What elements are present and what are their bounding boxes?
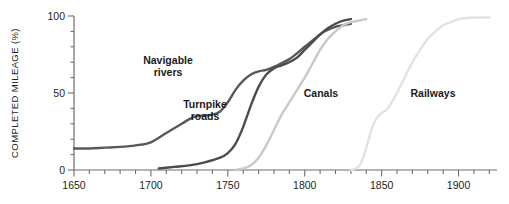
- x-axis-tick-labels: 165017001750180018501900: [62, 179, 470, 191]
- series-label-line: rivers: [143, 66, 193, 78]
- y-axis-ticks: [68, 16, 74, 170]
- y-tick-label-100: 100: [47, 10, 65, 22]
- series-label-line: roads: [183, 110, 227, 122]
- x-tick-label-1750: 1750: [216, 179, 240, 191]
- y-axis-title: COMPLETED MILEAGE (%): [9, 28, 20, 158]
- diffusion-s-curve-chart: 050100 165017001750180018501900 COMPLETE…: [0, 0, 509, 204]
- series-label-turnpike-roads: Turnpikeroads: [183, 98, 227, 122]
- series-label-canals: Canals: [304, 87, 338, 99]
- x-tick-label-1850: 1850: [370, 179, 394, 191]
- series-label-railways: Railways: [411, 87, 456, 99]
- chart-container: 050100 165017001750180018501900 COMPLETE…: [0, 0, 509, 204]
- series-label-line: Navigable: [143, 54, 193, 66]
- series-label-line: Railways: [411, 87, 456, 99]
- x-tick-label-1700: 1700: [139, 179, 163, 191]
- series-label-navigable-rivers: Navigablerivers: [143, 54, 193, 78]
- x-axis-ticks: [74, 170, 489, 177]
- x-tick-label-1900: 1900: [447, 179, 471, 191]
- series-label-line: Canals: [304, 87, 338, 99]
- x-tick-label-1800: 1800: [293, 179, 317, 191]
- series-label-line: Turnpike: [183, 98, 227, 110]
- y-tick-label-0: 0: [59, 164, 65, 176]
- y-axis-tick-labels: 050100: [47, 10, 65, 176]
- y-tick-label-50: 50: [53, 87, 65, 99]
- x-tick-label-1650: 1650: [62, 179, 86, 191]
